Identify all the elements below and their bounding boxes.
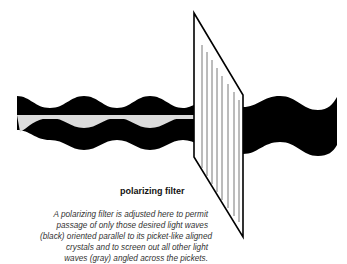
- black-light-wave-transmitted: [243, 96, 337, 156]
- gray-wave-band: [18, 115, 218, 119]
- caption-line: passage of only those desired light wave…: [40, 220, 208, 231]
- caption: A polarizing filter is adjusted here to …: [40, 209, 208, 264]
- caption-line: (black) oriented parallel to its picket-…: [40, 231, 208, 242]
- caption-line: waves (gray) angled across the pickets.: [40, 253, 208, 264]
- caption-line: A polarizing filter is adjusted here to …: [40, 209, 208, 220]
- black-light-wave-incoming: [17, 96, 220, 150]
- caption-line: crystals and to screen out all other lig…: [40, 242, 208, 253]
- filter-label: polarizing filter: [120, 186, 210, 196]
